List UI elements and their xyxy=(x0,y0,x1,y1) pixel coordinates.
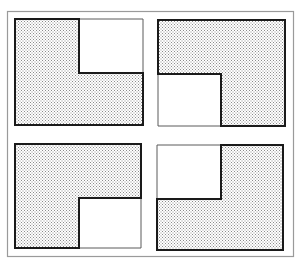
figure xyxy=(0,0,303,262)
panel-top-right xyxy=(158,20,285,126)
panel-bottom-right xyxy=(157,145,283,250)
panel-top-left xyxy=(15,19,143,125)
panel-bottom-left xyxy=(15,144,141,248)
